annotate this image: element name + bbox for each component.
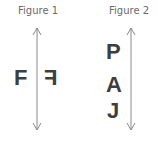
double-arrow-icon — [33, 28, 41, 130]
double-arrow-icon — [127, 28, 135, 130]
mirror-axes — [0, 0, 159, 141]
